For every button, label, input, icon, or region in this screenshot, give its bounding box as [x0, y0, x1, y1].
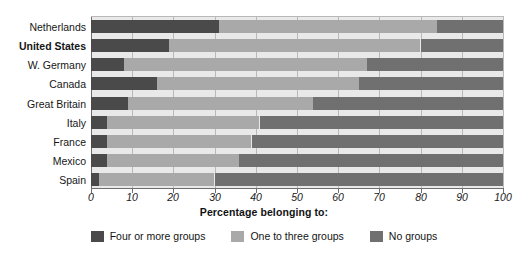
category-label-united-states: United States: [0, 40, 91, 52]
bar-segment: [91, 20, 219, 33]
legend-label: No groups: [389, 230, 437, 242]
bar-segment: [239, 154, 503, 167]
legend-label: Four or more groups: [110, 230, 206, 242]
bar-segment: [91, 77, 157, 90]
x-axis-tick-label: 80: [415, 191, 427, 203]
legend-item-no-groups: No groups: [370, 230, 437, 242]
x-axis-tick-label: 60: [332, 191, 344, 203]
x-axis-tick-label: 70: [373, 191, 385, 203]
category-label-spain: Spain: [0, 174, 91, 186]
bar-segment: [124, 58, 367, 71]
bar-segment: [215, 173, 503, 186]
x-axis-tick-label: 90: [456, 191, 468, 203]
legend-label: One to three groups: [250, 230, 343, 242]
legend-swatch-icon: [370, 231, 383, 242]
bar-segment: [252, 135, 503, 148]
bar-segment: [91, 135, 107, 148]
bar-segment: [91, 97, 128, 110]
bar-segment: [91, 116, 107, 129]
bar-segment: [421, 39, 503, 52]
category-label-mexico: Mexico: [0, 155, 91, 167]
x-axis-tick-label: 50: [291, 191, 303, 203]
category-label-netherlands: Netherlands: [0, 21, 91, 33]
x-axis-tick-label: 10: [126, 191, 138, 203]
category-label-w-germany: W. Germany: [0, 59, 91, 71]
category-label-france: France: [0, 136, 91, 148]
bar-segment: [91, 173, 99, 186]
bar-segment: [313, 97, 503, 110]
bar-segment: [91, 58, 124, 71]
bar-segment: [219, 20, 437, 33]
bar-segment: [437, 20, 503, 33]
bar-segment: [91, 154, 107, 167]
legend-swatch-icon: [91, 231, 104, 242]
x-axis-title: Percentage belonging to:: [0, 206, 528, 218]
bar-segment: [99, 173, 214, 186]
bar-segment: [260, 116, 503, 129]
bar-segment: [169, 39, 420, 52]
bar-segment: [91, 39, 169, 52]
x-axis-tick-label: 100: [494, 191, 512, 203]
legend-swatch-icon: [231, 231, 244, 242]
x-axis-tick-label: 40: [250, 191, 262, 203]
category-label-canada: Canada: [0, 78, 91, 90]
bar-segment: [128, 97, 313, 110]
bar-segment: [107, 116, 259, 129]
x-axis-tick-label: 20: [167, 191, 179, 203]
legend-item-one-to-three-groups: One to three groups: [231, 230, 343, 242]
bar-segment: [359, 77, 503, 90]
x-axis-tick-label: 30: [209, 191, 221, 203]
bar-segment: [157, 77, 359, 90]
chart-container: NetherlandsUnited StatesW. GermanyCanada…: [0, 0, 528, 260]
x-axis-tick-label: 0: [88, 191, 94, 203]
legend: Four or more groups One to three groups …: [0, 230, 528, 242]
bar-segment: [367, 58, 503, 71]
bar-segment: [107, 154, 239, 167]
bar-segment: [107, 135, 251, 148]
category-label-italy: Italy: [0, 117, 91, 129]
category-label-great-britain: Great Britain: [0, 98, 91, 110]
legend-item-four-or-more-groups: Four or more groups: [91, 230, 206, 242]
